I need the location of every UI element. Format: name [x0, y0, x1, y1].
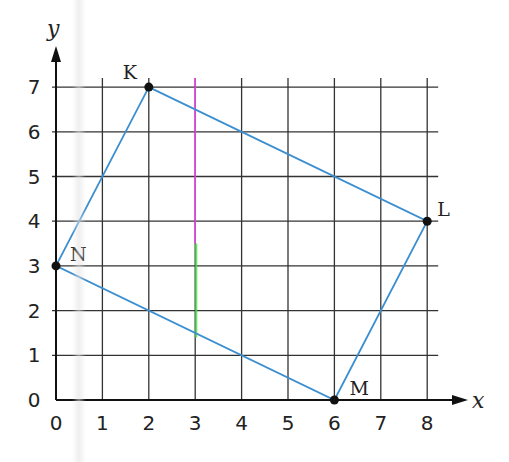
coordinate-plot: 01234567801234567 KLMN x y — [0, 0, 509, 462]
x-tick-label: 0 — [50, 411, 63, 435]
point-label-n: N — [70, 243, 87, 265]
y-tick-label: 5 — [28, 165, 41, 189]
y-tick-label: 2 — [28, 299, 41, 323]
x-tick-label: 4 — [235, 411, 248, 435]
y-tick-label: 4 — [28, 209, 41, 233]
x-tick-label: 3 — [189, 411, 202, 435]
point-label-m: M — [349, 377, 368, 399]
grid-lines — [52, 78, 438, 400]
point-k — [144, 83, 153, 92]
x-tick-label: 6 — [328, 411, 341, 435]
x-tick-label: 2 — [142, 411, 155, 435]
points: KLMN — [52, 61, 451, 404]
y-axis-arrow-icon — [51, 46, 61, 62]
point-label-l: L — [437, 198, 450, 220]
x-axis-arrow-icon — [452, 395, 468, 405]
y-axis-label: y — [46, 16, 60, 41]
y-tick-label: 3 — [28, 254, 41, 278]
point-l — [423, 217, 432, 226]
x-axis-label: x — [472, 388, 485, 413]
axes — [51, 46, 468, 405]
highlighted-gridline — [195, 78, 196, 337]
x-tick-label: 1 — [96, 411, 109, 435]
y-tick-label: 6 — [28, 120, 41, 144]
x-tick-label: 5 — [282, 411, 295, 435]
y-tick-label: 1 — [28, 343, 41, 367]
x-tick-label: 7 — [374, 411, 387, 435]
y-tick-label: 7 — [28, 75, 41, 99]
y-tick-label: 0 — [28, 388, 41, 412]
tick-labels: 01234567801234567 — [28, 75, 434, 435]
point-n — [52, 261, 61, 270]
point-label-k: K — [123, 61, 138, 83]
x-tick-label: 8 — [421, 411, 434, 435]
point-m — [330, 396, 339, 405]
